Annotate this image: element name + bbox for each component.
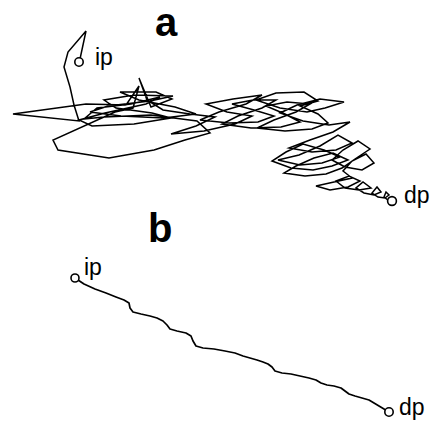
panel-b (0, 214, 440, 428)
start-point-label-a: ip (95, 46, 113, 69)
panel-letter-b: b (148, 208, 172, 248)
trajectory-figure: a ip dp b ip dp (0, 0, 440, 428)
end-point-marker-b (385, 408, 393, 416)
start-point-marker-b (71, 274, 79, 282)
end-point-label-a: dp (404, 184, 430, 207)
panel-a-plot (0, 0, 440, 214)
end-point-marker-a (388, 197, 397, 206)
trajectory-a-path (13, 31, 392, 201)
panel-letter-a: a (155, 2, 177, 42)
end-point-label-b: dp (399, 396, 425, 419)
panel-a (0, 0, 440, 214)
panel-b-plot (0, 214, 440, 428)
start-point-label-b: ip (84, 256, 102, 279)
trajectory-b-path (75, 278, 389, 412)
start-point-marker-a (75, 58, 83, 66)
